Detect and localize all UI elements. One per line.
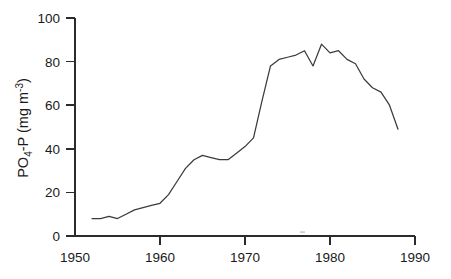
y-axis-ticks <box>66 18 75 236</box>
y-tick-label-20: 20 <box>45 185 60 200</box>
x-tick-label-1970: 1970 <box>230 250 260 265</box>
y-tick-label-80: 80 <box>45 55 60 70</box>
x-tick-label-1980: 1980 <box>315 250 345 265</box>
data-line-po4p <box>92 44 398 218</box>
line-chart-plot: 100 80 60 40 20 0 1950 1960 1970 1980 19… <box>0 0 451 279</box>
y-tick-label-100: 100 <box>37 11 60 26</box>
x-tick-label-1990: 1990 <box>400 250 430 265</box>
y-tick-label-60: 60 <box>45 98 60 113</box>
y-axis-title-tail: ) <box>15 78 31 83</box>
svg-text:PO4-P (mg m-3): PO4-P (mg m-3) <box>14 78 34 178</box>
x-tick-label-1960: 1960 <box>145 250 175 265</box>
y-axis-title-mid: -P (mg m <box>15 92 31 151</box>
y-axis-title: PO4-P (mg m-3) <box>14 78 34 178</box>
y-tick-label-40: 40 <box>45 142 60 157</box>
y-tick-label-0: 0 <box>52 229 60 244</box>
y-axis-title-lead: PO <box>15 157 31 178</box>
scan-artifact <box>300 232 305 233</box>
x-tick-label-1950: 1950 <box>60 250 90 265</box>
chart-figure: 100 80 60 40 20 0 1950 1960 1970 1980 19… <box>0 0 451 279</box>
